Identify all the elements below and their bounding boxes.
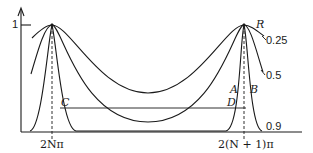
x-tick-label-2Npi: 2Nπ: [40, 139, 64, 150]
point-B: B: [250, 84, 258, 95]
legend-R-0.25: 0.25: [266, 35, 287, 46]
point-A: A: [230, 84, 238, 95]
legend-R-0.5: 0.5: [266, 70, 281, 81]
curve-R-0.9: [30, 25, 262, 131]
peak-dot-1: [50, 23, 53, 26]
y-tick-label: 1: [12, 19, 18, 30]
legend-R-0.9: 0.9: [266, 121, 281, 132]
peak-dot-2: [242, 23, 245, 26]
point-D: D: [227, 97, 236, 108]
legend-title-R: R: [256, 19, 264, 30]
x-tick-label-2N1pi: 2(N + 1)π: [218, 139, 274, 150]
point-C: C: [61, 97, 69, 108]
